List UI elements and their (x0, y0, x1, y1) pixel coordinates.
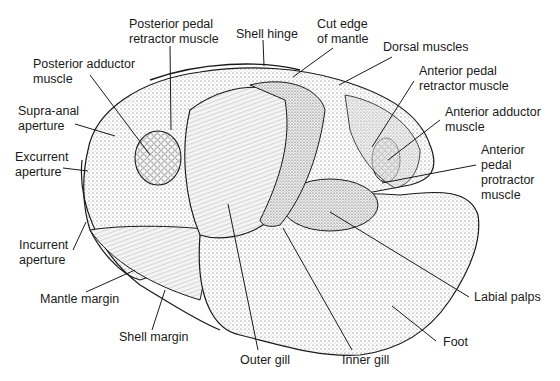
label-mantle-margin: Mantle margin (40, 292, 119, 307)
mantle-region (90, 226, 215, 300)
label-incurrent-aperture: Incurrent aperture (19, 238, 68, 268)
label-supra-anal-aperture: Supra-anal aperture (18, 104, 79, 134)
label-posterior-pedal-retractor-muscle: Posterior pedal retractor muscle (129, 17, 219, 47)
label-inner-gill: Inner gill (342, 353, 389, 368)
label-labial-palps: Labial palps (474, 290, 541, 305)
label-outer-gill: Outer gill (240, 353, 290, 368)
label-anterior-pedal-retractor-muscle: Anterior pedal retractor muscle (419, 64, 509, 94)
label-shell-margin: Shell margin (119, 330, 188, 345)
label-excurrent-aperture: Excurrent aperture (15, 150, 69, 180)
label-anterior-pedal-protractor-muscle: Anterior pedal protractor muscle (481, 143, 535, 203)
posterior-adductor-muscle (135, 131, 181, 185)
label-dorsal-muscles: Dorsal muscles (383, 40, 468, 55)
label-shell-hinge: Shell hinge (236, 27, 298, 42)
label-anterior-adductor-muscle: Anterior adductor muscle (445, 105, 541, 135)
label-foot: Foot (443, 335, 468, 350)
label-posterior-adductor-muscle: Posterior adductor muscle (33, 57, 135, 87)
label-cut-edge-of-mantle: Cut edge of mantle (317, 17, 368, 47)
